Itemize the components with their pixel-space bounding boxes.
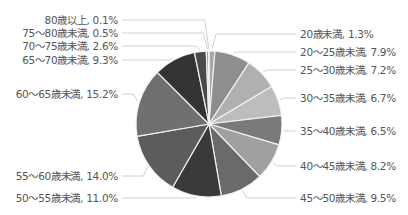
- slice-label: 70～75歳未満, 2.6%: [22, 40, 118, 52]
- slice-label: 65～70歳未満, 9.3%: [22, 54, 118, 66]
- leader-line: [122, 58, 174, 60]
- slice-label: 60～65歳未満, 15.2%: [16, 88, 119, 100]
- leader-line: [243, 191, 296, 198]
- slice-label: 25～30歳未満, 7.2%: [300, 64, 396, 76]
- slice-label: 45～50歳未満, 9.5%: [300, 192, 396, 204]
- slice-label: 20～25歳未満, 7.9%: [300, 46, 396, 58]
- leader-line: [122, 20, 209, 49]
- leader-line: [280, 98, 296, 100]
- leader-line: [284, 130, 296, 131]
- slice-label: 20歳未満, 1.3%: [300, 28, 374, 40]
- slice-label: 30～35歳未満, 6.7%: [300, 92, 396, 104]
- leader-line: [122, 94, 138, 101]
- leader-line: [122, 167, 148, 176]
- slice-label: 80歳以上, 0.1%: [45, 14, 119, 26]
- slice-label: 55～60歳未満, 14.0%: [16, 170, 119, 182]
- pie-chart: 20歳未満, 1.3%20～25歳未満, 7.9%25～30歳未満, 7.2%3…: [0, 0, 408, 215]
- slice-label: 40～45歳未満, 8.2%: [300, 160, 396, 172]
- pie-slices: [136, 51, 282, 197]
- slice-label: 50～55歳未満, 11.0%: [16, 192, 119, 204]
- slice-label: 35～40歳未満, 6.5%: [300, 125, 396, 137]
- slice-label: 75～80歳未満, 0.5%: [22, 27, 118, 39]
- leader-line: [212, 34, 296, 49]
- leader-line: [263, 70, 296, 72]
- leader-line: [122, 46, 200, 50]
- leader-line: [273, 163, 296, 166]
- leader-line: [122, 33, 207, 49]
- leader-line: [233, 52, 296, 53]
